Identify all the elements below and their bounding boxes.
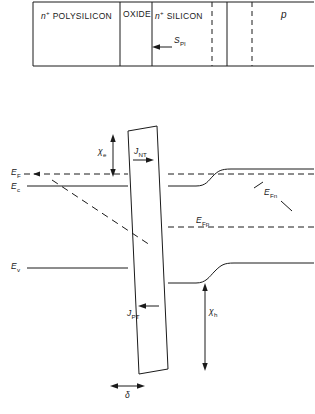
ec-right-step [168, 169, 314, 186]
delta-arrow-head-right [137, 383, 145, 389]
oxide-barrier-parallelogram [128, 126, 168, 374]
ef-arrow-head [33, 172, 40, 177]
figure-canvas [0, 0, 315, 414]
region-label-oxide: OXIDE [123, 9, 151, 19]
chi-e-arrow-head-top [110, 134, 115, 142]
region-label-n-silicon: n+ SILICON [155, 9, 203, 21]
chi-h-label: χh [209, 306, 217, 318]
delta-arrow-head-left [110, 383, 118, 389]
delta-label: δ [125, 390, 130, 400]
poly-dashed-slope [52, 180, 150, 245]
jnt-arrow-head [146, 157, 154, 163]
ec-label: Ec [11, 181, 20, 193]
ef-label: EF [11, 167, 21, 179]
ev-right-step [168, 263, 314, 283]
chi-h-arrow-head-top [202, 283, 207, 291]
spi-label: SPI [174, 35, 186, 47]
efn-label: EFn [264, 187, 277, 199]
jpt-label: JPT [127, 308, 139, 320]
region-label-p: p [281, 9, 287, 20]
efn-leader-upper [254, 182, 263, 188]
region-label-polysilicon: n+ POLYSILICON [41, 9, 112, 21]
band-diagram-figure: n+ POLYSILICON OXIDE n+ SILICON p SPI EF… [0, 0, 315, 414]
efn-leader-lower [281, 201, 292, 211]
spi-arrow-head [152, 44, 160, 50]
efp-label: EFp [196, 215, 209, 227]
ev-label: Ev [11, 261, 20, 273]
chi-h-arrow-head-bottom [202, 363, 207, 371]
chi-e-arrow-head-bottom [110, 169, 115, 177]
chi-e-label: χe [98, 146, 106, 158]
jnt-label: JNT [134, 146, 147, 158]
